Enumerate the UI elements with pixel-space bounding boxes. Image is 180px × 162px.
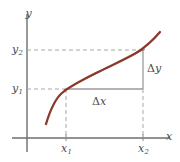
delta-x-label: Δx [92, 96, 106, 107]
tick-label-x1-sub: 1 [68, 148, 72, 156]
tick-label-y1-base: y [12, 82, 18, 95]
diagram-canvas [0, 0, 180, 162]
rate-of-change-diagram: y x y2 y1 x1 x2 Δy Δx [0, 0, 180, 162]
tick-label-x2-base: x [138, 142, 144, 155]
x-axis-label: x [166, 131, 172, 142]
tick-label-y1: y1 [12, 83, 23, 94]
delta-y-symbol: Δ [147, 62, 155, 75]
delta-x-symbol: Δ [92, 95, 100, 108]
tick-label-x1-base: x [61, 142, 67, 155]
tick-label-x1: x1 [61, 143, 72, 154]
tick-label-y2: y2 [12, 44, 23, 55]
delta-y-variable: y [155, 62, 161, 75]
tick-label-y1-sub: 1 [19, 88, 23, 96]
tick-label-x2: x2 [138, 143, 149, 154]
tick-label-y2-sub: 2 [19, 49, 23, 57]
delta-y-label: Δy [147, 63, 161, 74]
tick-label-y2-base: y [12, 43, 18, 56]
delta-x-variable: x [100, 95, 106, 108]
y-axis-label: y [26, 8, 32, 19]
tick-label-x2-sub: 2 [145, 148, 149, 156]
